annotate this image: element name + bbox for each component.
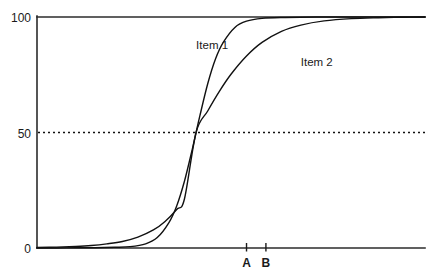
curve-item-2 <box>37 17 425 248</box>
x-tick-label-b: B <box>262 256 271 270</box>
y-tick-label-0: 0 <box>24 242 31 256</box>
y-tick-label-50: 50 <box>18 127 32 141</box>
x-tick-label-a: A <box>242 256 251 270</box>
series-label-item-2: Item 2 <box>301 56 333 68</box>
curve-item-1 <box>37 17 425 248</box>
y-tick-label-100: 100 <box>11 11 31 25</box>
item-characteristic-curve-chart: 100 50 0 A B Item 1 Item 2 <box>0 0 440 276</box>
series-label-item-1: Item 1 <box>196 39 228 51</box>
chart-canvas: 100 50 0 A B Item 1 Item 2 <box>0 0 440 276</box>
